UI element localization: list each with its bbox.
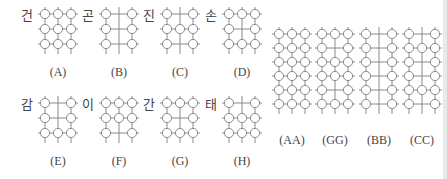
node-circle <box>127 24 136 33</box>
node-circle <box>387 99 396 108</box>
node-circle <box>114 98 123 107</box>
node-circle <box>175 128 184 137</box>
node-circle <box>361 57 370 66</box>
node-circle <box>343 99 352 108</box>
node-circle <box>317 71 326 80</box>
node-circle <box>430 29 439 38</box>
node-circle <box>237 128 246 137</box>
lattice-diagram <box>97 95 141 153</box>
node-circle <box>361 71 370 80</box>
node-circle <box>317 43 326 52</box>
node-circle <box>40 9 49 18</box>
node-circle <box>40 98 49 107</box>
hangul-char: 태 <box>205 98 217 111</box>
node-circle <box>224 24 233 33</box>
panel-label: (GG) <box>310 134 360 146</box>
node-circle <box>300 71 309 80</box>
node-circle <box>101 24 110 33</box>
node-circle <box>175 98 184 107</box>
node-circle <box>127 128 136 137</box>
panel-label: (F) <box>99 155 139 167</box>
node-circle <box>387 29 396 38</box>
panel-label: (H) <box>222 155 262 167</box>
node-circle <box>330 71 339 80</box>
node-circle <box>361 29 370 38</box>
node-circle <box>188 9 197 18</box>
hangul-char: 간 <box>143 98 155 111</box>
node-circle <box>417 85 426 94</box>
node-circle <box>430 71 439 80</box>
node-circle <box>188 98 197 107</box>
node-circle <box>343 29 352 38</box>
node-circle <box>101 39 110 48</box>
node-circle <box>224 128 233 137</box>
node-circle <box>224 9 233 18</box>
node-circle <box>300 57 309 66</box>
lattice-diagram <box>36 6 80 64</box>
node-circle <box>53 24 62 33</box>
node-circle <box>361 43 370 52</box>
node-circle <box>237 9 246 18</box>
lattice-diagram <box>158 95 202 153</box>
node-circle <box>66 128 75 137</box>
node-circle <box>127 98 136 107</box>
node-circle <box>300 29 309 38</box>
lattice-diagram <box>220 6 264 64</box>
node-circle <box>250 113 259 122</box>
hangul-char: 이 <box>82 98 94 111</box>
node-circle <box>66 9 75 18</box>
node-circle <box>430 43 439 52</box>
node-circle <box>40 128 49 137</box>
node-circle <box>404 57 413 66</box>
panel-label: (E) <box>38 155 78 167</box>
node-circle <box>237 39 246 48</box>
hangul-char: 건 <box>21 9 33 22</box>
node-circle <box>300 43 309 52</box>
node-circle <box>317 99 326 108</box>
node-circle <box>387 57 396 66</box>
node-circle <box>188 24 197 33</box>
node-circle <box>387 43 396 52</box>
node-circle <box>330 99 339 108</box>
lattice-diagram <box>97 6 141 64</box>
node-circle <box>430 99 439 108</box>
hangul-char: 손 <box>205 9 217 22</box>
node-circle <box>224 39 233 48</box>
node-circle <box>53 39 62 48</box>
node-circle <box>101 128 110 137</box>
node-circle <box>317 85 326 94</box>
node-circle <box>343 57 352 66</box>
node-circle <box>162 9 171 18</box>
node-circle <box>404 85 413 94</box>
node-circle <box>287 29 296 38</box>
node-circle <box>343 71 352 80</box>
node-circle <box>343 85 352 94</box>
lattice-diagram <box>270 26 314 126</box>
node-circle <box>387 85 396 94</box>
node-circle <box>250 9 259 18</box>
node-circle <box>162 98 171 107</box>
node-circle <box>274 99 283 108</box>
node-circle <box>274 57 283 66</box>
node-circle <box>66 24 75 33</box>
lattice-diagram <box>313 26 357 126</box>
hangul-char: 곤 <box>82 9 94 22</box>
node-circle <box>387 71 396 80</box>
node-circle <box>188 113 197 122</box>
lattice-diagram <box>220 95 264 153</box>
node-circle <box>53 9 62 18</box>
node-circle <box>40 24 49 33</box>
node-circle <box>330 29 339 38</box>
node-circle <box>127 39 136 48</box>
node-circle <box>162 128 171 137</box>
edge-strip <box>443 0 447 179</box>
node-circle <box>317 57 326 66</box>
node-circle <box>101 9 110 18</box>
panel-label: (CC) <box>397 134 447 146</box>
lattice-diagram <box>400 26 444 126</box>
node-circle <box>330 57 339 66</box>
node-circle <box>287 57 296 66</box>
node-circle <box>274 43 283 52</box>
node-circle <box>53 128 62 137</box>
node-circle <box>404 29 413 38</box>
